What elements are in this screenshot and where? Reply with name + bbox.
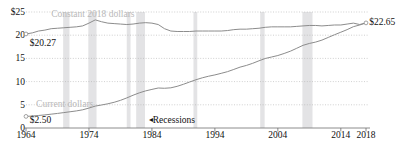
annotation-recessions: ◂Recessions	[149, 115, 195, 125]
recession-band	[127, 12, 131, 128]
recession-band	[136, 12, 145, 128]
chart-container: $2520151050 1964197419841994200420142018…	[0, 0, 407, 147]
series-inline-label: Current dollars	[36, 99, 93, 109]
endpoint-value-label: $20.27	[30, 38, 56, 48]
endpoint-marker	[24, 115, 28, 119]
annotation-text: Recessions	[153, 115, 195, 125]
endpoint-marker	[24, 32, 28, 36]
endpoint-value-label: $22.65	[369, 17, 395, 27]
recession-band	[63, 12, 69, 128]
endpoint-value-label: $2.50	[30, 115, 51, 125]
recession-band	[88, 12, 96, 128]
plot-area	[0, 0, 407, 147]
recession-band	[260, 12, 264, 128]
series-inline-label: Constant 2018 dollars	[51, 9, 134, 19]
endpoint-marker	[364, 21, 368, 25]
recession-band	[193, 12, 197, 128]
recession-band	[302, 12, 312, 128]
